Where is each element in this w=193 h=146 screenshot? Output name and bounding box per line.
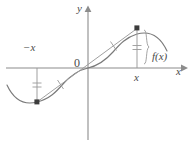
figure-canvas xyxy=(0,0,193,146)
x-axis-arrowhead xyxy=(181,65,188,72)
vertical-segment-right-group xyxy=(133,28,142,68)
hash-mark-right-single xyxy=(111,42,117,51)
odd-function-figure: y x 0 −x x f(x) xyxy=(0,0,193,146)
vertical-segment-left-group xyxy=(33,68,42,102)
x-axis-label: x xyxy=(176,66,181,77)
negative-x-tick-label: −x xyxy=(23,42,35,53)
point-marker-positive xyxy=(134,25,139,30)
fx-brace-group xyxy=(144,30,149,64)
function-value-label: f(x) xyxy=(152,51,167,62)
fx-brace xyxy=(144,30,149,64)
y-axis-label: y xyxy=(77,3,82,14)
origin-label: 0 xyxy=(74,57,80,69)
positive-x-tick-label: x xyxy=(134,72,139,83)
axes-group xyxy=(6,6,188,141)
point-marker-negative xyxy=(34,99,39,104)
y-axis-arrowhead xyxy=(85,6,92,13)
